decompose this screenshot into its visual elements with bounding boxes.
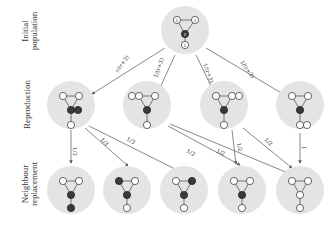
prob-label: 1 [301,146,307,150]
prob-label: 1/2 [186,148,197,158]
node-label: 1 [176,18,179,23]
neighbour-state-3 [160,166,208,214]
prob-label: 1/2 [236,142,243,152]
prob-label: 1/2 [263,136,274,147]
initial-population-state: 1 1 r 1 [161,6,209,54]
prob-label: 1/2 [216,147,227,156]
neighbour-state-2 [103,166,151,214]
reproduction-state-1 [47,81,95,129]
node-label: 1 [194,18,197,23]
prob-label: 1/3 [72,147,78,156]
neighbour-state-4 [218,166,266,214]
node-label: 1 [184,43,187,48]
moran-process-diagram: 1 1 r 1 r/(r+3) 1/(r+3) 1/(r+3) 1/(r+3) [0,0,333,225]
neighbour-state-1 [47,166,95,214]
prob-label: 1/3 [99,136,110,147]
prob-label: 1/3 [126,136,137,146]
prob-label: r/(r+3) [114,54,130,73]
neighbour-state-5 [276,166,324,214]
prob-label: 1/(r+3) [152,57,165,78]
reproduction-state-2 [123,81,171,129]
reproduction-state-4 [276,81,324,129]
reproduction-state-3 [200,81,248,129]
prob-label: 1/(r+3) [202,62,215,83]
